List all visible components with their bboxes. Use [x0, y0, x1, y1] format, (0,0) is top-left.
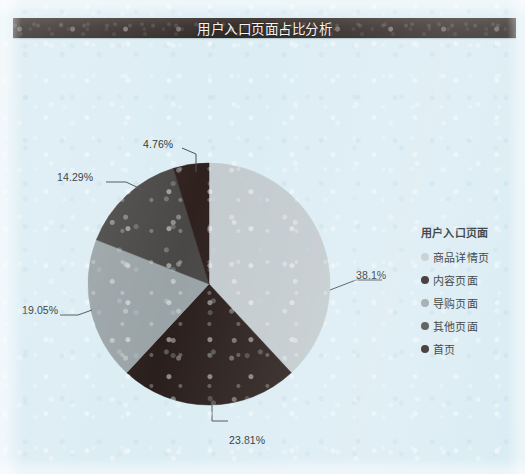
leader-line-38 — [330, 280, 382, 290]
legend-item-shangpin-xiangqing-ye[interactable]: 商品详情页 — [421, 247, 521, 267]
leader-line-19 — [60, 310, 92, 315]
legend-item-neirong-yemian[interactable]: 内容页面 — [421, 270, 521, 290]
pie-label-14: 14.29% — [57, 171, 93, 183]
legend-item-label: 内容页面 — [433, 272, 478, 288]
leader-line-23 — [212, 405, 228, 421]
legend-item-label: 商品详情页 — [433, 249, 489, 265]
legend-swatch-icon — [421, 253, 429, 261]
legend-swatch-icon — [421, 299, 429, 307]
legend-item-label: 其他页面 — [433, 318, 478, 334]
pie-label-23: 23.81% — [229, 434, 265, 446]
legend-swatch-icon — [421, 322, 429, 330]
legend-swatch-icon — [421, 276, 429, 284]
pie-label-19: 19.05% — [22, 304, 58, 316]
chart-title-bar: 用户入口页面占比分析 — [13, 18, 516, 38]
pie-label-4: 4.76% — [143, 138, 173, 150]
legend-swatch-icon — [421, 345, 429, 353]
pie-label-38: 38.1% — [356, 269, 386, 281]
page-title: 用户入口页面占比分析 — [197, 18, 332, 38]
legend-item-daogou-yemian[interactable]: 导购页面 — [421, 293, 521, 313]
legend-title: 用户入口页面 — [421, 224, 521, 240]
legend-item-label: 导购页面 — [433, 295, 478, 311]
legend-item-shouye[interactable]: 首页 — [421, 339, 521, 359]
chart-page: 用户入口页面占比分析 38. — [0, 0, 525, 474]
legend-item-qita-yemian[interactable]: 其他页面 — [421, 316, 521, 336]
legend-item-label: 首页 — [433, 341, 455, 357]
legend: 用户入口页面 商品详情页 内容页面 导购页面 其他页面 首页 — [421, 224, 521, 362]
